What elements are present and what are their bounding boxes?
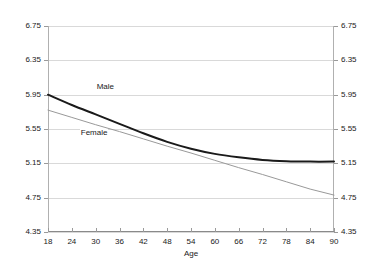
x-axis-tick bbox=[286, 228, 287, 232]
y-axis-tick-label-left: 6.75 bbox=[25, 22, 41, 30]
y-axis-tick-right bbox=[334, 232, 338, 233]
x-axis-tick-label: 90 bbox=[330, 238, 339, 246]
x-axis-tick bbox=[72, 228, 73, 232]
chart-container: 4.354.755.155.555.956.356.75 4.354.755.1… bbox=[0, 0, 385, 269]
series-label-female: Female bbox=[80, 129, 109, 137]
y-axis-tick-label-left: 5.95 bbox=[25, 91, 41, 99]
y-axis-tick-right bbox=[334, 60, 338, 61]
y-axis-tick-label-left: 4.35 bbox=[25, 228, 41, 236]
x-axis-tick bbox=[215, 228, 216, 232]
y-axis-tick-label-right: 4.35 bbox=[341, 228, 357, 236]
y-axis-tick-right bbox=[334, 26, 338, 27]
plot-area: 4.354.755.155.555.956.356.75 4.354.755.1… bbox=[48, 26, 334, 232]
x-axis-tick-label: 66 bbox=[234, 238, 243, 246]
x-axis-tick bbox=[120, 228, 121, 232]
series-label-male: Male bbox=[96, 83, 115, 91]
x-axis-tick bbox=[167, 228, 168, 232]
x-axis-tick bbox=[191, 228, 192, 232]
y-axis-tick-label-right: 4.75 bbox=[341, 194, 357, 202]
x-axis-tick-label: 54 bbox=[187, 238, 196, 246]
y-axis-tick-label-right: 5.95 bbox=[341, 91, 357, 99]
x-axis-tick-label: 60 bbox=[210, 238, 219, 246]
y-axis-tick-right bbox=[334, 95, 338, 96]
y-axis-tick-label-right: 5.55 bbox=[341, 125, 357, 133]
x-axis-tick-label: 36 bbox=[115, 238, 124, 246]
x-axis-tick-label: 78 bbox=[282, 238, 291, 246]
y-axis-tick-left bbox=[44, 232, 48, 233]
y-axis-tick-label-right: 6.75 bbox=[341, 22, 357, 30]
y-axis-tick-right bbox=[334, 163, 338, 164]
y-axis-tick-label-left: 4.75 bbox=[25, 194, 41, 202]
x-axis-tick-label: 30 bbox=[91, 238, 100, 246]
x-axis-tick-label: 84 bbox=[306, 238, 315, 246]
y-axis-tick-label-left: 5.55 bbox=[25, 125, 41, 133]
x-axis-title: Age bbox=[48, 249, 334, 258]
x-axis-tick bbox=[334, 228, 335, 232]
gridline bbox=[48, 232, 334, 233]
x-axis-tick bbox=[239, 228, 240, 232]
y-axis-tick-label-left: 6.35 bbox=[25, 56, 41, 64]
x-axis-tick-label: 42 bbox=[139, 238, 148, 246]
x-axis-tick-label: 18 bbox=[44, 238, 53, 246]
y-axis-tick-right bbox=[334, 129, 338, 130]
x-axis-tick bbox=[143, 228, 144, 232]
x-axis-tick bbox=[96, 228, 97, 232]
series-line-female bbox=[48, 110, 334, 195]
y-axis-tick-right bbox=[334, 198, 338, 199]
y-axis-tick-label-left: 5.15 bbox=[25, 159, 41, 167]
y-axis-tick-label-right: 5.15 bbox=[341, 159, 357, 167]
x-axis-tick-label: 24 bbox=[67, 238, 76, 246]
x-axis-tick-label: 72 bbox=[258, 238, 267, 246]
x-axis-tick bbox=[310, 228, 311, 232]
y-axis-tick-label-right: 6.35 bbox=[341, 56, 357, 64]
x-axis-tick bbox=[48, 228, 49, 232]
x-axis-tick-label: 48 bbox=[163, 238, 172, 246]
x-axis-tick bbox=[263, 228, 264, 232]
